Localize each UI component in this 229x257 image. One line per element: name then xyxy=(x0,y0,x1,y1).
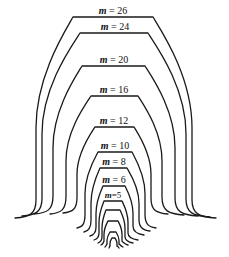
label-m-20: m = 20 xyxy=(100,55,128,65)
label-var: m xyxy=(102,174,110,185)
label-value: = 8 xyxy=(110,156,126,167)
contour-curve-inner-10 xyxy=(101,221,128,245)
label-value: = 20 xyxy=(108,54,129,65)
label-value: = 12 xyxy=(108,115,129,126)
label-var: m xyxy=(100,54,108,65)
label-var: m xyxy=(99,5,107,16)
contour-curve-inner-11 xyxy=(105,232,123,247)
label-var: m xyxy=(100,115,108,126)
label-value: = 16 xyxy=(108,84,129,95)
label-m-16: m = 16 xyxy=(100,85,128,95)
contour-curve-inner-12 xyxy=(109,238,119,248)
label-m-6: m = 6 xyxy=(102,175,125,185)
label-var: m xyxy=(101,21,109,32)
label-value: = 6 xyxy=(110,174,126,185)
contour-diagram xyxy=(0,0,229,257)
label-m-12: m = 12 xyxy=(100,116,128,126)
label-m-10: m = 10 xyxy=(101,141,129,151)
label-var: m xyxy=(100,84,108,95)
label-value: = 26 xyxy=(107,5,128,16)
contour-curves xyxy=(15,17,216,248)
label-var: m xyxy=(102,156,110,167)
label-var: m xyxy=(105,190,112,200)
label-m-5: m=5 xyxy=(105,191,122,200)
label-m-8: m = 8 xyxy=(102,157,125,167)
label-m-24: m = 24 xyxy=(101,22,129,32)
label-value: =5 xyxy=(112,190,122,200)
label-value: = 24 xyxy=(109,21,130,32)
label-value: = 10 xyxy=(109,140,130,151)
label-m-26: m = 26 xyxy=(99,6,127,16)
label-var: m xyxy=(101,140,109,151)
